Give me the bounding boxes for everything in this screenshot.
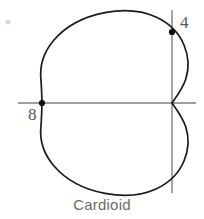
speck-artifact bbox=[5, 19, 10, 24]
point-marker-4 bbox=[169, 29, 175, 35]
tick-label-horizontal: 8 bbox=[28, 106, 37, 123]
cardioid-figure: 4 8 Cardioid bbox=[0, 0, 204, 219]
point-marker-8 bbox=[39, 100, 45, 106]
figure-caption: Cardioid bbox=[0, 196, 204, 213]
tick-label-vertical: 4 bbox=[180, 14, 189, 31]
